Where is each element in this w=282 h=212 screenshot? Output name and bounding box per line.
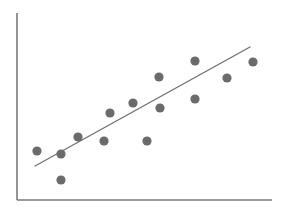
data-point <box>142 136 151 145</box>
chart-background <box>0 0 282 212</box>
data-point <box>32 146 41 155</box>
scatter-chart-figure <box>0 0 282 212</box>
data-point <box>248 57 257 66</box>
data-point <box>190 56 199 65</box>
chart-canvas <box>0 0 282 212</box>
data-point <box>128 98 137 107</box>
data-point <box>155 103 164 112</box>
data-point <box>222 73 231 82</box>
data-point <box>105 108 114 117</box>
data-point <box>154 72 163 81</box>
data-point <box>190 94 199 103</box>
data-point <box>99 136 108 145</box>
data-point <box>56 175 65 184</box>
data-point <box>73 132 82 141</box>
data-point <box>56 149 65 158</box>
